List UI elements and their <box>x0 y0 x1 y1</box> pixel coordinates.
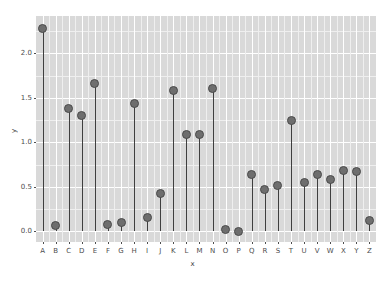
data-point-marker[interactable] <box>247 170 256 179</box>
data-point-marker[interactable] <box>365 216 374 225</box>
data-point-marker[interactable] <box>77 111 86 120</box>
gridline-minor-vertical <box>167 16 168 242</box>
x-axis-tick-mark <box>43 242 44 244</box>
stem-chart: 0.00.51.01.52.0 ABCDEFGHIJKLMNOPQRSTUVWX… <box>0 0 385 292</box>
gridline-major-vertical <box>239 16 240 242</box>
gridline-minor-vertical <box>337 16 338 242</box>
y-axis-tick-mark <box>34 142 36 143</box>
x-axis-tick-label: M <box>196 247 202 255</box>
data-point-marker[interactable] <box>182 130 191 139</box>
x-axis-tick-mark <box>199 242 200 244</box>
plot-panel <box>36 16 376 242</box>
stem-line <box>199 134 200 231</box>
x-axis-tick-label: O <box>223 247 229 255</box>
gridline-major-vertical <box>108 16 109 242</box>
gridline-minor-vertical <box>245 16 246 242</box>
data-point-marker[interactable] <box>352 167 361 176</box>
x-axis-tick-mark <box>147 242 148 244</box>
data-point-marker[interactable] <box>234 227 243 236</box>
gridline-major-vertical <box>369 16 370 242</box>
gridline-minor-vertical <box>206 16 207 242</box>
x-axis-tick-label: A <box>40 247 45 255</box>
x-axis-tick-label: R <box>262 247 267 255</box>
stem-line <box>356 172 357 232</box>
x-axis-tick-mark <box>121 242 122 244</box>
gridline-minor-vertical <box>258 16 259 242</box>
y-axis-tick-label: 0.0 <box>21 227 32 235</box>
x-axis-tick-mark <box>173 242 174 244</box>
x-axis-tick-mark <box>239 242 240 244</box>
gridline-minor-vertical <box>49 16 50 242</box>
y-axis-tick-mark <box>34 187 36 188</box>
y-axis-tick-mark <box>34 98 36 99</box>
stem-line <box>82 116 83 232</box>
x-axis-tick-label: Q <box>249 247 255 255</box>
gridline-minor-vertical <box>232 16 233 242</box>
x-axis-tick-mark <box>186 242 187 244</box>
data-point-marker[interactable] <box>221 225 230 234</box>
x-axis-tick-mark <box>69 242 70 244</box>
stem-line <box>186 134 187 231</box>
data-point-marker[interactable] <box>64 104 73 113</box>
stem-line <box>160 193 161 231</box>
data-point-marker[interactable] <box>117 218 126 227</box>
x-axis-tick-label: Y <box>354 247 358 255</box>
x-axis-tick-mark <box>82 242 83 244</box>
stem-line <box>95 84 96 232</box>
gridline-minor-vertical <box>363 16 364 242</box>
stem-line <box>69 109 70 232</box>
data-point-marker[interactable] <box>326 175 335 184</box>
stem-line <box>343 171 344 232</box>
gridline-minor-vertical <box>101 16 102 242</box>
x-axis-tick-mark <box>134 242 135 244</box>
gridline-minor-vertical <box>154 16 155 242</box>
y-axis-tick-mark <box>34 231 36 232</box>
data-point-marker[interactable] <box>156 189 165 198</box>
data-point-marker[interactable] <box>339 166 348 175</box>
y-axis-tick-label: 1.5 <box>21 94 32 102</box>
x-axis-tick-label: V <box>315 247 320 255</box>
gridline-minor-vertical <box>75 16 76 242</box>
y-axis-tick-label: 2.0 <box>21 49 32 57</box>
x-axis-tick-label: S <box>276 247 280 255</box>
data-point-marker[interactable] <box>208 84 217 93</box>
x-axis-tick-label: E <box>93 247 97 255</box>
data-point-marker[interactable] <box>300 178 309 187</box>
stem-line <box>330 180 331 232</box>
data-point-marker[interactable] <box>51 221 60 230</box>
data-point-marker[interactable] <box>287 116 296 125</box>
stem-line <box>252 174 253 231</box>
gridline-minor-vertical <box>141 16 142 242</box>
gridline-minor-vertical <box>62 16 63 242</box>
gridline-major-vertical <box>226 16 227 242</box>
data-point-marker[interactable] <box>143 213 152 222</box>
stem-line <box>278 186 279 231</box>
data-point-marker[interactable] <box>90 79 99 88</box>
gridline-minor-vertical <box>350 16 351 242</box>
data-point-marker[interactable] <box>313 170 322 179</box>
data-point-marker[interactable] <box>195 130 204 139</box>
data-point-marker[interactable] <box>273 181 282 190</box>
x-axis-tick-mark <box>330 242 331 244</box>
x-axis-tick-mark <box>213 242 214 244</box>
stem-line <box>304 182 305 231</box>
gridline-minor-vertical <box>128 16 129 242</box>
x-axis-tick-label: J <box>159 247 161 255</box>
data-point-marker[interactable] <box>260 185 269 194</box>
gridline-minor-vertical <box>180 16 181 242</box>
stem-line <box>213 89 214 231</box>
x-axis-tick-label: D <box>79 247 84 255</box>
x-axis-tick-mark <box>278 242 279 244</box>
data-point-marker[interactable] <box>130 99 139 108</box>
x-axis-tick-mark <box>108 242 109 244</box>
stem-line <box>134 103 135 231</box>
data-point-marker[interactable] <box>38 24 47 33</box>
x-axis-tick-mark <box>252 242 253 244</box>
x-axis-title: x <box>0 260 385 268</box>
x-axis-tick-mark <box>369 242 370 244</box>
x-axis-tick-mark <box>356 242 357 244</box>
stem-line <box>173 91 174 232</box>
data-point-marker[interactable] <box>169 86 178 95</box>
x-axis-tick-mark <box>265 242 266 244</box>
data-point-marker[interactable] <box>103 220 112 229</box>
